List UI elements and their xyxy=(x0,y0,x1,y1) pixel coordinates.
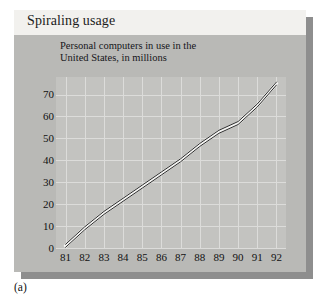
y-axis-tick-label: 60 xyxy=(24,111,54,122)
x-axis-labels: 818283848586878889909192 xyxy=(56,251,286,267)
gridline-horizontal xyxy=(56,116,286,117)
gridline-horizontal xyxy=(56,226,286,227)
gridline-horizontal xyxy=(56,182,286,183)
gridline-horizontal xyxy=(56,160,286,161)
gridline-horizontal xyxy=(56,204,286,205)
figure-caption: (a) xyxy=(14,281,27,293)
gridline-horizontal xyxy=(56,248,286,249)
gridline-vertical xyxy=(276,77,277,248)
gridline-vertical xyxy=(257,77,258,248)
y-axis-tick-label: 10 xyxy=(24,221,54,232)
plot-wrapper: 010203040506070 818283848586878889909192 xyxy=(14,10,306,272)
y-axis-tick-label: 20 xyxy=(24,199,54,210)
y-axis-tick-label: 30 xyxy=(24,177,54,188)
gridline-vertical xyxy=(219,77,220,248)
gridline-vertical xyxy=(181,77,182,248)
y-axis-tick-label: 40 xyxy=(24,155,54,166)
gridline-horizontal xyxy=(56,138,286,139)
chart-panel: Spiraling usage Personal computers in us… xyxy=(14,10,306,272)
x-axis-tick-label: 92 xyxy=(265,251,287,263)
gridline-vertical xyxy=(142,77,143,248)
gridline-vertical xyxy=(238,77,239,248)
gridline-vertical xyxy=(161,77,162,248)
y-axis-tick-label: 0 xyxy=(24,243,54,254)
plot-area xyxy=(56,77,286,248)
y-axis-tick-label: 50 xyxy=(24,133,54,144)
gridline-vertical xyxy=(200,77,201,248)
figure-root: Spiraling usage Personal computers in us… xyxy=(0,0,323,300)
gridline-vertical xyxy=(104,77,105,248)
gridline-vertical xyxy=(123,77,124,248)
y-axis-tick-label: 70 xyxy=(24,89,54,100)
y-axis-labels: 010203040506070 xyxy=(20,77,54,248)
gridline-vertical xyxy=(85,77,86,248)
gridline-horizontal xyxy=(56,95,286,96)
gridline-vertical xyxy=(66,77,67,248)
